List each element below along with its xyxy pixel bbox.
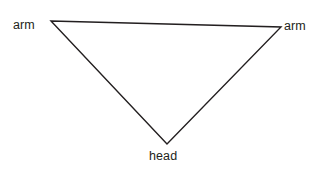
label-head: head	[149, 150, 177, 163]
label-arm-left: arm	[13, 19, 35, 32]
diagram-canvas: arm arm head	[0, 0, 324, 173]
label-arm-right: arm	[284, 20, 306, 33]
inverted-triangle-outline	[51, 21, 281, 144]
triangle-diagram	[0, 0, 324, 173]
